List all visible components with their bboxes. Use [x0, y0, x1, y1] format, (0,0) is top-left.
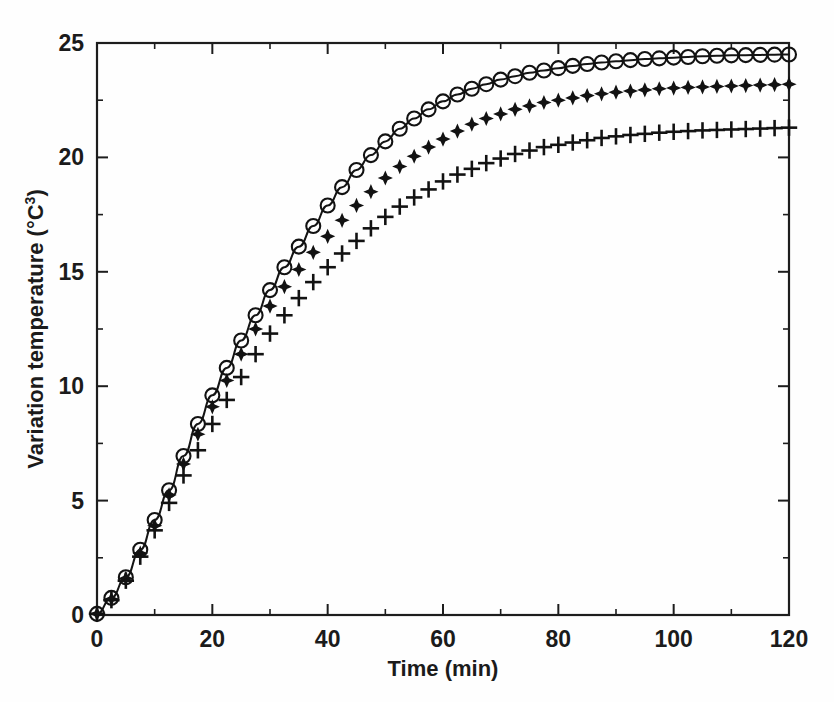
- data-point-plus: [348, 233, 364, 249]
- data-point-plus: [608, 128, 624, 144]
- data-point-plus: [694, 122, 710, 138]
- y-tick-label: 20: [58, 144, 84, 170]
- data-point-diamond: [623, 83, 638, 98]
- data-point-diamond: [363, 184, 378, 199]
- data-point-plus: [536, 139, 552, 155]
- data-point-diamond: [493, 106, 508, 121]
- data-point-diamond: [479, 111, 494, 126]
- data-point-plus: [637, 126, 653, 142]
- x-tick-label: 60: [430, 626, 456, 652]
- data-point-plus: [665, 124, 681, 140]
- x-tick-label: 120: [770, 626, 808, 652]
- y-tick-label: 5: [71, 488, 84, 514]
- data-point-diamond: [580, 88, 595, 103]
- data-point-plus: [709, 122, 725, 138]
- figure-panel: 020406080100120 0510152025 Time (min) Va…: [0, 0, 834, 702]
- x-tick-label: 20: [200, 626, 226, 652]
- data-point-plus: [449, 166, 465, 182]
- data-point-diamond: [262, 299, 277, 314]
- data-point-diamond: [464, 117, 479, 132]
- data-point-diamond: [652, 81, 667, 96]
- data-point-plus: [565, 134, 581, 150]
- data-point-diamond: [637, 82, 652, 97]
- data-point-plus: [550, 137, 566, 153]
- data-point-diamond: [291, 262, 306, 277]
- data-point-diamond: [565, 90, 580, 105]
- data-point-plus: [723, 121, 739, 137]
- data-point-plus: [363, 220, 379, 236]
- data-point-plus: [406, 189, 422, 205]
- data-point-diamond: [594, 86, 609, 101]
- data-point-plus: [219, 392, 235, 408]
- x-tick-label: 100: [654, 626, 692, 652]
- data-point-diamond: [680, 80, 695, 95]
- x-axis-title: Time (min): [388, 656, 499, 681]
- axes-frame: [97, 43, 789, 615]
- data-point-diamond: [349, 198, 364, 213]
- data-point-plus: [464, 161, 480, 177]
- data-point-diamond: [767, 77, 782, 92]
- data-point-plus: [521, 142, 537, 158]
- data-point-diamond: [277, 279, 292, 294]
- data-point-plus: [478, 155, 494, 171]
- data-point-plus: [507, 146, 523, 162]
- data-point-diamond: [407, 149, 422, 164]
- data-point-diamond: [392, 159, 407, 174]
- y-tick-label: 15: [58, 259, 84, 285]
- series-diamonds-layer: [89, 77, 796, 622]
- data-point-plus: [247, 346, 263, 362]
- x-tick-label: 0: [91, 626, 104, 652]
- data-point-plus: [435, 173, 451, 189]
- data-point-plus: [204, 416, 220, 432]
- data-point-plus: [651, 124, 667, 140]
- ticks-minor-layer: [97, 43, 789, 615]
- data-point-diamond: [378, 170, 393, 185]
- data-point-plus: [262, 325, 278, 341]
- data-point-plus: [305, 274, 321, 290]
- ticks-major-layer: [97, 43, 789, 615]
- data-point-plus: [291, 290, 307, 306]
- y-tick-label: 25: [58, 30, 84, 56]
- data-point-diamond: [666, 80, 681, 95]
- data-point-diamond: [507, 102, 522, 117]
- chart-plot: 020406080100120 0510152025 Time (min) Va…: [0, 0, 834, 702]
- data-point-plus: [276, 307, 292, 323]
- data-point-diamond: [724, 78, 739, 93]
- data-point-plus: [334, 245, 350, 261]
- data-point-diamond: [334, 213, 349, 228]
- xtick-labels: 020406080100120: [91, 626, 809, 652]
- data-point-plus: [233, 369, 249, 385]
- data-point-diamond: [695, 79, 710, 94]
- data-point-plus: [392, 198, 408, 214]
- data-point-plus: [752, 120, 768, 136]
- data-point-diamond: [608, 85, 623, 100]
- data-point-diamond: [435, 132, 450, 147]
- data-point-plus: [319, 259, 335, 275]
- data-point-plus: [492, 150, 508, 166]
- x-tick-label: 80: [546, 626, 572, 652]
- data-point-plus: [579, 132, 595, 148]
- x-tick-label: 40: [315, 626, 341, 652]
- data-point-diamond: [320, 229, 335, 244]
- data-point-plus: [781, 119, 797, 135]
- data-point-plus: [377, 209, 393, 225]
- data-point-diamond: [450, 123, 465, 138]
- y-tick-label: 10: [58, 373, 84, 399]
- y-tick-label: 0: [71, 602, 84, 628]
- data-point-plus: [738, 121, 754, 137]
- data-point-plus: [766, 120, 782, 136]
- data-point-plus: [680, 123, 696, 139]
- data-point-diamond: [536, 95, 551, 110]
- data-point-diamond: [551, 93, 566, 108]
- data-point-plus: [190, 442, 206, 458]
- series-plus-layer: [89, 119, 797, 622]
- data-point-diamond: [709, 79, 724, 94]
- data-point-plus: [420, 181, 436, 197]
- data-point-plus: [622, 127, 638, 143]
- data-point-diamond: [421, 140, 436, 155]
- data-point-diamond: [306, 245, 321, 260]
- y-axis-title: Variation temperature (°C3): [22, 189, 48, 468]
- data-point-diamond: [522, 98, 537, 113]
- ytick-labels: 0510152025: [58, 30, 84, 628]
- data-point-diamond: [738, 78, 753, 93]
